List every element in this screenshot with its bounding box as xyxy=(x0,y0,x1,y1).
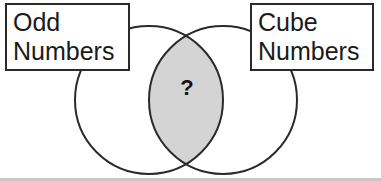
odd-numbers-label-line-2: Numbers xyxy=(13,37,124,66)
cube-numbers-label-box: Cube Numbers xyxy=(250,3,374,71)
cube-numbers-label-line-1: Cube xyxy=(258,8,368,37)
odd-numbers-label-box: Odd Numbers xyxy=(5,3,130,71)
cube-numbers-label-line-2: Numbers xyxy=(258,37,368,66)
odd-numbers-label-line-1: Odd xyxy=(13,8,124,37)
bottom-divider xyxy=(0,178,381,181)
intersection-question-mark: ? xyxy=(176,75,198,101)
